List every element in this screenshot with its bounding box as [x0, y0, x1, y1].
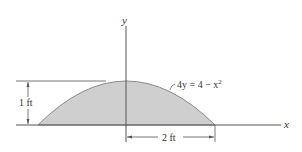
equation-leader: [170, 84, 175, 90]
height-dimension-label: 1 ft: [19, 97, 33, 108]
height-arrow-top-icon: [27, 82, 30, 87]
parabolic-area-diagram: y x 4y = 4 − x2 1 ft 2 ft: [0, 0, 302, 152]
half-width-dimension-label: 2 ft: [162, 132, 176, 143]
y-axis-label: y: [121, 14, 127, 26]
width-arrow-left-icon: [127, 136, 132, 139]
curve-equation: 4y = 4 − x2: [177, 78, 222, 90]
x-axis-label: x: [283, 118, 289, 130]
height-arrow-bottom-icon: [27, 119, 30, 124]
width-arrow-right-icon: [209, 136, 214, 139]
